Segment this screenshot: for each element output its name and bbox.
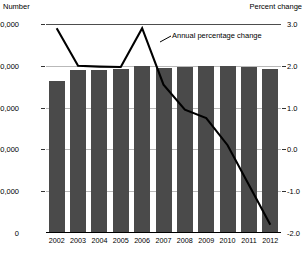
combo-chart: Number Percent change 0400,000800,0001,2… <box>0 0 306 254</box>
annotation-label: Annual percentage change <box>172 31 262 40</box>
